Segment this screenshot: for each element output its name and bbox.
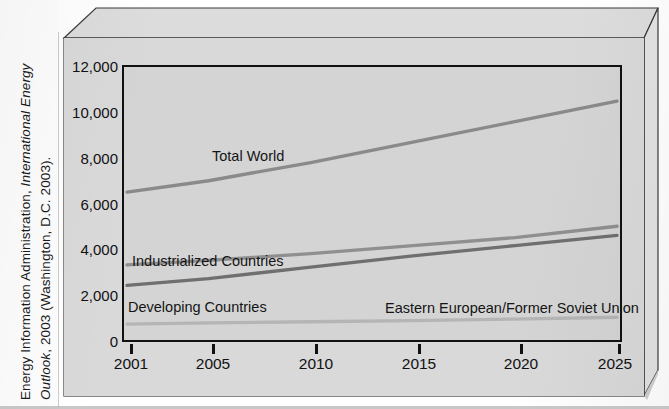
series-line	[127, 317, 617, 324]
x-tick-label: 2005	[196, 355, 230, 373]
x-tick-label: 2025	[598, 355, 632, 373]
x-tick-label: 2020	[504, 355, 538, 373]
x-tick	[212, 344, 215, 354]
source-text-italic-title-cont: Outlook	[38, 353, 53, 400]
series-label-industrialized: Industrialized Countries	[132, 253, 284, 269]
series-lines	[127, 101, 617, 324]
y-tick-label: 2,000	[80, 287, 118, 304]
y-tick-label: 0	[110, 333, 118, 350]
source-caption-line-2: Outlook, 2003 (Washington, D.C. 2003).	[38, 157, 53, 400]
y-tick-label: 12,000	[72, 58, 118, 75]
source-caption: Energy Information Administration, Inter…	[0, 0, 58, 409]
x-tick	[618, 344, 621, 354]
series-label-developing: Developing Countries	[128, 299, 267, 315]
series-line	[127, 101, 617, 192]
source-text-italic-title: International Energy	[18, 64, 33, 187]
series-label-eastern-europe: Eastern European/Former Soviet Union	[385, 300, 639, 316]
source-text-plain-cont: , 2003 (Washington, D.C. 2003).	[38, 157, 53, 353]
x-tick	[130, 344, 133, 354]
series-label-total-world: Total World	[212, 148, 284, 164]
x-tick-label: 2001	[114, 355, 148, 373]
source-text-plain: Energy Information Administration,	[18, 186, 33, 400]
y-tick-label: 6,000	[80, 196, 118, 213]
y-tick-label: 4,000	[80, 241, 118, 258]
x-tick	[520, 344, 523, 354]
x-tick-label: 2010	[299, 355, 333, 373]
x-tick-label: 2015	[402, 355, 436, 373]
x-tick	[418, 344, 421, 354]
y-tick-label: 10,000	[72, 104, 118, 121]
source-caption-line-1: Energy Information Administration, Inter…	[18, 64, 33, 400]
y-axis-labels: 12,000 10,000 8,000 6,000 4,000 2,000 0	[56, 0, 118, 409]
y-tick-label: 8,000	[80, 150, 118, 167]
x-tick	[315, 344, 318, 354]
